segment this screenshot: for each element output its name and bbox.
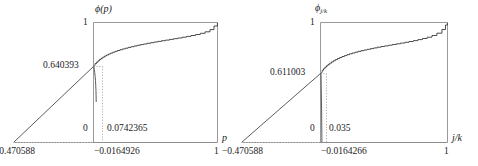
x-tick-left-left: −0.470588 <box>0 147 35 157</box>
x-tick-left-right: −0.470588 <box>222 147 263 157</box>
y-tick-mid-left: 0.640393 <box>43 61 79 71</box>
annotation-inflection-right: 0.035 <box>329 124 350 134</box>
chart-right-svg <box>239 0 478 166</box>
y-tick-zero-right: 0 <box>310 124 315 134</box>
tangent-line-right <box>242 74 321 143</box>
main-curve-left <box>94 23 218 67</box>
y-tick-mid-right: 0.611003 <box>270 68 305 78</box>
x-tick-right-left: 1 <box>214 147 219 157</box>
chart-panel-right: ϕj/k j/k 1 0.611003 0 0.035 −0.470588 −0… <box>239 0 478 166</box>
y-axis-title-left: ϕ(p) <box>95 4 112 14</box>
figure-container: ϕ(p) p 1 0.640393 0 0.0742365 −0.470588 … <box>0 0 478 166</box>
x-tick-mid-left: −0.0164926 <box>94 147 140 157</box>
main-curve-right <box>321 23 447 74</box>
y-axis-title-right-subscript: j/k <box>320 7 327 14</box>
x-axis-title-right: j/k <box>452 133 462 143</box>
annotation-inflection-left: 0.0742365 <box>107 124 147 134</box>
y-tick-zero-left: 0 <box>83 124 88 134</box>
y-tick-top-right: 1 <box>310 18 315 28</box>
tangent-line-left <box>14 67 94 143</box>
y-axis-title-right: ϕj/k <box>315 3 327 13</box>
y-tick-top-left: 1 <box>83 18 88 28</box>
lower-branch-right <box>321 74 322 143</box>
x-tick-mid-right: −0.0164266 <box>321 147 367 157</box>
chart-panel-left: ϕ(p) p 1 0.640393 0 0.0742365 −0.470588 … <box>0 0 239 166</box>
x-tick-right-right: 1 <box>444 147 449 157</box>
lower-branch-left <box>94 67 96 103</box>
x-axis-title-left: p <box>222 133 227 143</box>
chart-left-svg <box>0 0 239 166</box>
